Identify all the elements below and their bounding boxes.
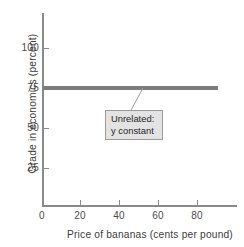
x-tick-label-60: 60 <box>145 210 171 221</box>
x-tick-label-20: 20 <box>67 210 93 221</box>
data-line-grade-constant <box>43 86 218 90</box>
x-tick-label-40: 40 <box>106 210 132 221</box>
x-tick-label-0: 0 <box>29 210 55 221</box>
x-tick-80 <box>197 200 198 205</box>
x-tick-20 <box>80 200 81 205</box>
x-tick-40 <box>119 200 120 205</box>
annotation-line-2: y constant <box>111 125 162 137</box>
chart-figure: 100 75 50 25 0 20 40 60 80 Unrelated: y … <box>0 0 244 247</box>
y-axis-title: Grade in economics (percent) <box>27 14 38 194</box>
y-tick-25 <box>43 168 49 169</box>
annotation-unrelated-callout: Unrelated: y constant <box>105 110 163 140</box>
y-axis-line <box>42 13 44 206</box>
annotation-line-1: Unrelated: <box>111 113 162 125</box>
y-tick-100 <box>43 48 49 49</box>
x-axis-line <box>42 205 237 207</box>
x-axis-title: Price of bananas (cents per pound) <box>60 229 240 240</box>
x-tick-60 <box>158 200 159 205</box>
y-tick-50 <box>43 128 49 129</box>
x-tick-label-80: 80 <box>184 210 210 221</box>
